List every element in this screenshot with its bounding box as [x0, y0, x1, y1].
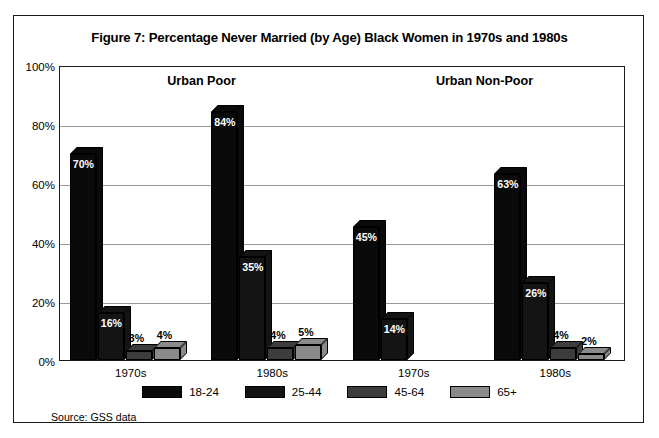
x-axis-tick-label: 1980s	[257, 367, 288, 379]
y-axis-tick-label: 80%	[32, 120, 55, 132]
legend-swatch	[142, 386, 182, 398]
bar-18-24-1980s-3: 63%	[494, 174, 520, 360]
bar-front-face	[550, 348, 576, 360]
bar-front-face	[154, 348, 180, 360]
bar-25-44-1970s-2: 14%	[381, 319, 407, 360]
bar-value-label: 2%	[581, 336, 596, 347]
x-axis-tick-label: 1970s	[398, 367, 429, 379]
bar-45-64-1970s-0: 3%	[126, 351, 152, 360]
bar-65plus-1980s-1: 5%	[295, 345, 321, 360]
figure-container: Figure 7: Percentage Never Married (by A…	[13, 15, 644, 423]
bar-front-face	[494, 174, 520, 360]
bar-value-label: 16%	[101, 318, 122, 329]
chart-plot-area: 0%20%40%60%80%100%70%16%3%4%1970s84%35%4…	[59, 66, 625, 361]
bar-value-label: 35%	[242, 262, 263, 273]
bar-front-face	[578, 354, 604, 360]
bar-65plus-1980s-3: 2%	[578, 354, 604, 360]
bar-front-face	[295, 345, 321, 360]
bar-value-label: 4%	[157, 330, 172, 341]
legend-label: 65+	[497, 385, 517, 398]
gridline	[60, 185, 624, 186]
x-axis-tick-label: 1980s	[540, 367, 571, 379]
y-axis-tick-label: 0%	[38, 356, 55, 368]
legend-item-65plus: 65+	[450, 385, 517, 398]
legend-item-18-24: 18-24	[142, 385, 219, 398]
bar-value-label: 4%	[553, 330, 568, 341]
legend-label: 45-64	[394, 385, 424, 398]
page-title: Figure 7: Percentage Never Married (by A…	[14, 30, 645, 45]
group-header-urban-non-poor: Urban Non-Poor	[436, 74, 533, 88]
bar-front-face	[211, 112, 237, 360]
bar-45-64-1980s-1: 4%	[267, 348, 293, 360]
legend-swatch	[450, 386, 490, 398]
legend-label: 25-44	[292, 385, 322, 398]
bar-value-label: 70%	[73, 159, 94, 170]
bar-18-24-1970s-0: 70%	[70, 154, 96, 361]
source-note: Source: GSS data	[51, 411, 136, 423]
bar-18-24-1970s-2: 45%	[353, 227, 379, 360]
bar-value-label: 84%	[214, 117, 235, 128]
group-header-urban-poor: Urban Poor	[167, 74, 236, 88]
x-axis-tick-label: 1970s	[115, 367, 146, 379]
y-axis-tick-label: 20%	[32, 297, 55, 309]
bar-side-face	[407, 312, 414, 360]
y-axis-tick-label: 100%	[26, 61, 55, 73]
gridline	[60, 126, 624, 127]
bar-25-44-1980s-1: 35%	[239, 257, 265, 360]
bar-front-face	[353, 227, 379, 360]
bar-value-label: 3%	[129, 333, 144, 344]
bar-18-24-1980s-1: 84%	[211, 112, 237, 360]
y-axis-tick-label: 60%	[32, 179, 55, 191]
legend-item-45-64: 45-64	[347, 385, 424, 398]
chart-legend: 18-2425-4445-6465+	[14, 385, 645, 398]
bar-front-face	[267, 348, 293, 360]
bar-value-label: 5%	[298, 327, 313, 338]
bar-front-face	[70, 154, 96, 361]
y-axis-tick-label: 40%	[32, 238, 55, 250]
legend-swatch	[245, 386, 285, 398]
bar-25-44-1970s-0: 16%	[98, 313, 124, 360]
bar-65plus-1970s-0: 4%	[154, 348, 180, 360]
bar-value-label: 45%	[356, 232, 377, 243]
legend-item-25-44: 25-44	[245, 385, 322, 398]
bar-value-label: 14%	[384, 324, 405, 335]
gridline	[60, 244, 624, 245]
bar-front-face	[126, 351, 152, 360]
bar-45-64-1980s-3: 4%	[550, 348, 576, 360]
bar-value-label: 4%	[270, 330, 285, 341]
bar-value-label: 26%	[525, 288, 546, 299]
legend-label: 18-24	[189, 385, 219, 398]
bar-value-label: 63%	[497, 179, 518, 190]
legend-swatch	[347, 386, 387, 398]
bar-25-44-1980s-3: 26%	[522, 283, 548, 360]
